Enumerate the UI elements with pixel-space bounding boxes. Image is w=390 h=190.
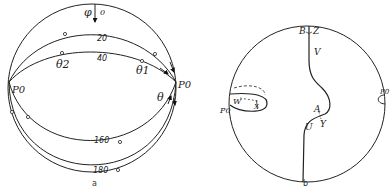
phi-label: φ: [84, 6, 92, 19]
curve-20: [9, 35, 176, 82]
label-U: U: [305, 122, 313, 132]
panel-a-labels: φ 0 20 40 160 180 θ2 θ1 θ P0 P0 a: [11, 6, 192, 188]
panel-a-outer-circle: [8, 4, 176, 172]
p0-right-label-b: P0: [379, 88, 390, 96]
point-marker: [116, 168, 119, 171]
point-marker: [60, 51, 63, 54]
point-marker: [10, 110, 13, 113]
point-marker: [153, 52, 156, 55]
curve-label-180: 180: [93, 166, 108, 175]
curve-40: [9, 52, 176, 82]
label-A: A: [313, 104, 321, 114]
theta1-label: θ1: [136, 64, 150, 77]
p0-left-label-b: P0: [219, 106, 230, 115]
label-Y: Y: [320, 119, 327, 129]
label-W: W: [233, 97, 242, 106]
panel-b-outer-circle: [229, 26, 385, 182]
caption-b: b: [303, 179, 308, 188]
zero-label: 0: [100, 8, 105, 17]
label-V: V: [314, 47, 322, 57]
theta2-label: θ2: [56, 58, 70, 71]
curve-label-40: 40: [97, 54, 107, 63]
label-B: B: [298, 26, 306, 36]
diagram-canvas: φ 0 20 40 160 180 θ2 θ1 θ P0 P0 a B Z V …: [0, 0, 390, 190]
point-marker: [26, 115, 29, 118]
curve-160: [9, 82, 176, 141]
curve-180: [9, 82, 176, 165]
point-marker: [118, 140, 121, 143]
label-Z: Z: [312, 26, 320, 36]
p0-right-label: P0: [177, 79, 192, 90]
curve-label-20: 20: [97, 34, 107, 43]
curve-label-160: 160: [94, 136, 109, 145]
wx-dash: [240, 98, 258, 101]
p0-left-label: P0: [11, 84, 26, 95]
right-p0-semicircle: [378, 95, 385, 104]
panel-b: [229, 26, 385, 182]
panel-a: [8, 4, 176, 172]
point-marker: [63, 32, 66, 35]
label-X: X: [253, 103, 260, 111]
point-marker: [140, 59, 143, 62]
theta-label: θ: [157, 91, 164, 104]
caption-a: a: [92, 179, 97, 188]
